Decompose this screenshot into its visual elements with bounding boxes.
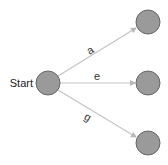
node-target-e[interactable] xyxy=(136,71,160,95)
edge-start-to-n1[interactable] xyxy=(58,28,136,76)
edge-label-a: a xyxy=(84,43,96,57)
node-label-start: Start xyxy=(10,77,33,89)
node-start[interactable] xyxy=(36,71,60,95)
node-target-g[interactable] xyxy=(136,131,160,155)
edge-start-to-n3[interactable] xyxy=(58,90,136,137)
edge-label-g: g xyxy=(82,110,93,123)
edge-label-e: e xyxy=(94,70,100,82)
edges: a e g xyxy=(58,28,136,137)
node-target-a[interactable] xyxy=(136,10,160,34)
state-diagram: a e g Start xyxy=(0,0,168,165)
